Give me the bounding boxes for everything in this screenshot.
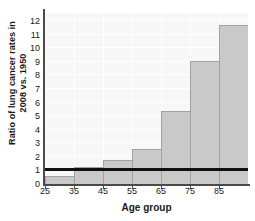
x-axis-tick-mark [45,186,46,189]
x-axis-tick-mark [132,186,133,189]
chart-container: Ratio of lung cancer rates in 2008 vs. 1… [0,0,255,221]
x-axis-tick-labels: 25354555657585 [0,0,255,221]
x-axis-tick-mark [190,186,191,189]
x-axis-tick-mark [161,186,162,189]
x-axis-tick-mark [219,186,220,189]
x-axis-tick-mark [103,186,104,189]
x-axis-tick-mark [74,186,75,189]
x-axis-title: Age group [45,202,248,213]
